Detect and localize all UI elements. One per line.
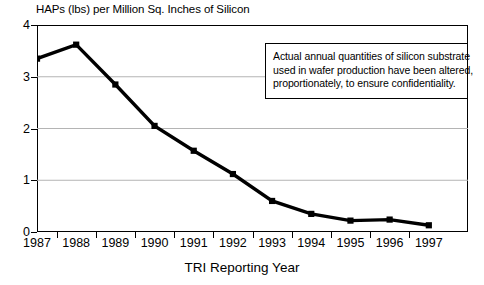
x-tick-mark — [57, 232, 58, 238]
annotation-line: used in wafer production have been alter… — [273, 64, 460, 78]
chart-figure: HAPs (lbs) per Million Sq. Inches of Sil… — [0, 0, 484, 285]
data-point-marker — [269, 198, 275, 204]
x-tick-mark — [253, 232, 254, 238]
x-tick-mark — [135, 232, 136, 238]
data-point-marker — [347, 218, 353, 224]
x-tick-mark — [409, 232, 410, 238]
data-point-marker — [112, 81, 118, 87]
x-tick-mark — [174, 232, 175, 238]
x-tick-mark — [331, 232, 332, 238]
data-point-marker — [73, 42, 79, 48]
y-tick-mark — [31, 77, 37, 78]
y-tick-label: 2 — [2, 123, 30, 135]
y-tick-label: 4 — [2, 19, 30, 31]
data-point-marker — [387, 216, 393, 222]
data-point-marker — [37, 56, 40, 62]
annotation-note: Actual annual quantities of silicon subs… — [265, 43, 468, 99]
x-tick-mark — [292, 232, 293, 238]
y-tick-mark — [31, 129, 37, 130]
data-point-marker — [426, 222, 432, 228]
x-tick-label: 1997 — [406, 236, 452, 250]
data-point-marker — [151, 123, 157, 129]
y-tick-mark — [31, 25, 37, 26]
annotation-line: proportionately, to ensure confidentiali… — [273, 77, 460, 91]
x-tick-mark — [370, 232, 371, 238]
data-point-marker — [230, 171, 236, 177]
data-point-marker — [191, 148, 197, 154]
x-axis-title: TRI Reporting Year — [0, 260, 484, 276]
x-tick-mark — [213, 232, 214, 238]
y-tick-label: 1 — [2, 174, 30, 186]
chart-title: HAPs (lbs) per Million Sq. Inches of Sil… — [36, 2, 250, 16]
data-point-marker — [308, 211, 314, 217]
y-tick-mark — [31, 232, 37, 233]
annotation-line: Actual annual quantities of silicon subs… — [273, 50, 460, 64]
y-tick-mark — [31, 180, 37, 181]
x-tick-mark — [96, 232, 97, 238]
y-tick-label: 3 — [2, 71, 30, 83]
